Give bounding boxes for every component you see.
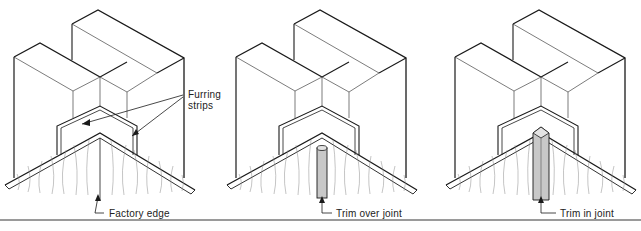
panel-trim-in-joint [446, 10, 636, 213]
factory-edge-label: Factory edge [109, 208, 170, 219]
figure-drawing [0, 0, 641, 231]
furring-strips-label: Furring strips [188, 89, 221, 111]
furring-label-line1: Furring [188, 89, 221, 100]
panel-factory-edge [5, 10, 195, 213]
trim-in-joint-label: Trim in joint [560, 208, 614, 219]
figure-bottom-rule [0, 219, 641, 221]
panel-trim-over-joint [227, 10, 417, 213]
furring-arrow-left [82, 95, 183, 124]
trim-molding-over [317, 148, 327, 198]
furring-arrow-right [132, 97, 183, 136]
furring-label-line2: strips [188, 100, 221, 111]
trim-over-joint-label: Trim over joint [336, 208, 402, 219]
wall-corner-paneling-figure: Furring strips Factory edge Trim over jo… [0, 0, 641, 231]
